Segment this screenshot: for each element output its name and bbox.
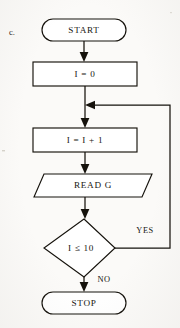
node-stop-label: STOP [71,298,96,308]
node-read-label: READ G [74,180,112,190]
scan-speck [170,12,172,13]
edge-label-yes: YES [136,226,153,235]
arrowhead-into-read [81,164,90,174]
node-increment-label: I = I + 1 [67,135,104,145]
node-decision-label: I ≤ 10 [68,243,94,253]
arrowhead-into-increment [81,118,90,128]
arrowhead-loop-merge [85,101,95,110]
item-label: c. [9,27,15,37]
flowchart-page: c. START I = 0 I = I + 1 READ G [0,0,180,328]
arrowhead-into-decision [81,209,90,219]
node-start-label: START [68,25,99,35]
node-init-label: I = 0 [75,69,96,79]
scan-speck [2,150,5,151]
arrowhead-into-init [80,52,89,62]
flowchart-canvas: c. START I = 0 I = I + 1 READ G [0,0,180,328]
edge-label-no: NO [97,275,110,284]
arrowhead-into-stop [80,282,89,292]
